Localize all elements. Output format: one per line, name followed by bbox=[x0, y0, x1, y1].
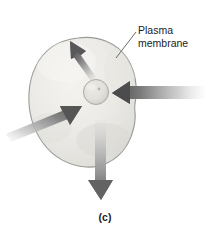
nucleolus bbox=[98, 88, 101, 91]
plasma-membrane-leader-line bbox=[116, 32, 136, 58]
arrow-inward-right bbox=[112, 81, 205, 104]
nucleus bbox=[84, 80, 109, 105]
cell-diagram-figure: Plasma membrane (c) bbox=[0, 0, 210, 236]
plasma-membrane-label-line2: membrane bbox=[138, 37, 188, 49]
plasma-membrane-label-line1: Plasma bbox=[138, 24, 173, 36]
nucleus-group bbox=[84, 80, 109, 105]
nucleus-highlight bbox=[87, 84, 96, 90]
figure-caption: (c) bbox=[99, 211, 112, 223]
